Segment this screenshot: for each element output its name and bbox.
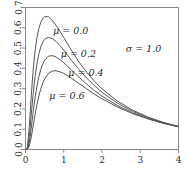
y-tick-label: 0.3 xyxy=(14,81,24,96)
x-tick-label: 2 xyxy=(99,155,105,165)
x-tick-label: 0 xyxy=(23,155,29,165)
plot-frame xyxy=(26,8,179,150)
x-tick-label: 1 xyxy=(61,155,67,165)
y-axis-tick-labels: 0.00.10.20.30.40.50.60.7 xyxy=(14,0,24,157)
chart-annotation: μ = 0.6 xyxy=(49,90,84,101)
y-tick-label: 0.2 xyxy=(14,102,24,116)
x-axis-tick-labels: 01234 xyxy=(23,155,182,165)
x-tick-label: 3 xyxy=(137,155,143,165)
chart-annotation: μ = 0.2 xyxy=(61,48,96,59)
y-tick-label: 0.5 xyxy=(14,41,24,56)
y-tick-label: 0.4 xyxy=(14,61,24,76)
density-curve xyxy=(26,71,179,150)
curve-annotations: μ = 0.0μ = 0.2μ = 0.4μ = 0.6σ = 1.0 xyxy=(49,25,161,100)
lognormal-density-chart: 01234 0.00.10.20.30.40.50.60.7 μ = 0.0μ … xyxy=(0,0,188,171)
density-curves xyxy=(26,17,179,150)
density-curve xyxy=(26,17,179,150)
chart-annotation: μ = 0.0 xyxy=(53,25,88,36)
x-tick-label: 4 xyxy=(176,155,182,165)
y-tick-label: 0.6 xyxy=(14,20,24,35)
chart-canvas: 01234 0.00.10.20.30.40.50.60.7 μ = 0.0μ … xyxy=(0,0,188,171)
y-tick-label: 0.0 xyxy=(14,142,24,157)
chart-annotation: μ = 0.4 xyxy=(68,67,103,78)
chart-annotation: σ = 1.0 xyxy=(126,43,162,54)
x-axis-ticks xyxy=(26,150,179,154)
y-tick-label: 0.1 xyxy=(14,122,24,136)
y-tick-label: 0.7 xyxy=(14,0,24,15)
